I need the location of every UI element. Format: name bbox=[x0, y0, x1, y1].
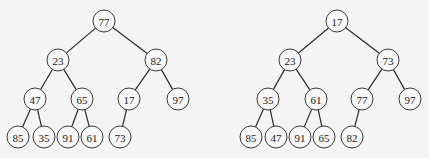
right-tree-edge bbox=[270, 110, 273, 126]
right-tree-edge bbox=[393, 70, 404, 90]
node-value: 77 bbox=[99, 16, 111, 28]
left-tree-node: 73 bbox=[109, 126, 131, 148]
right-tree-edge bbox=[296, 69, 310, 90]
node-value: 47 bbox=[30, 94, 42, 106]
node-value: 65 bbox=[77, 94, 89, 106]
right-tree-node: 85 bbox=[240, 126, 262, 148]
right-tree-edge bbox=[318, 110, 321, 126]
binary-tree-diagram: 7723824765179785359161731723733561779785… bbox=[0, 0, 429, 158]
node-value: 61 bbox=[311, 94, 322, 106]
node-value: 73 bbox=[115, 132, 127, 144]
right-tree-edge bbox=[298, 28, 328, 53]
left-tree-edge bbox=[161, 70, 172, 90]
right-tree-edge bbox=[304, 109, 311, 127]
right-tree-node: 47 bbox=[265, 126, 287, 148]
left-tree-edge bbox=[38, 110, 42, 127]
node-value: 35 bbox=[263, 94, 275, 106]
right-tree-node: 82 bbox=[341, 126, 363, 148]
left-tree-edge bbox=[113, 28, 147, 54]
right-tree-node: 73 bbox=[377, 49, 399, 71]
node-value: 61 bbox=[87, 132, 98, 144]
right-tree-edge bbox=[355, 110, 359, 127]
node-value: 97 bbox=[405, 94, 417, 106]
right-tree-node: 77 bbox=[351, 88, 373, 110]
right-tree-node: 17 bbox=[326, 10, 348, 32]
left-tree-edge bbox=[64, 69, 76, 89]
node-value: 82 bbox=[151, 55, 162, 67]
node-value: 23 bbox=[285, 55, 297, 67]
left-tree-node: 35 bbox=[33, 126, 55, 148]
left-tree-node: 17 bbox=[118, 88, 140, 110]
left-tree-node: 61 bbox=[81, 126, 103, 148]
node-value: 85 bbox=[13, 132, 25, 144]
node-value: 17 bbox=[332, 16, 344, 28]
node-value: 17 bbox=[124, 94, 136, 106]
left-tree-node: 23 bbox=[47, 49, 69, 71]
right-tree-edge bbox=[368, 69, 382, 90]
right-tree-node: 35 bbox=[257, 88, 279, 110]
node-value: 85 bbox=[246, 132, 258, 144]
left-tree-node: 85 bbox=[7, 126, 29, 148]
node-value: 73 bbox=[383, 55, 395, 67]
tree-edges bbox=[22, 28, 404, 127]
left-tree-node: 82 bbox=[145, 49, 167, 71]
node-value: 23 bbox=[53, 55, 65, 67]
right-tree-node: 23 bbox=[279, 49, 301, 71]
left-tree-node: 65 bbox=[71, 88, 93, 110]
right-tree-node: 61 bbox=[305, 88, 327, 110]
left-tree-edge bbox=[22, 109, 30, 127]
left-tree-edge bbox=[135, 69, 149, 90]
node-value: 91 bbox=[295, 132, 306, 144]
node-value: 77 bbox=[357, 94, 369, 106]
node-value: 47 bbox=[271, 132, 283, 144]
right-tree-node: 65 bbox=[313, 126, 335, 148]
node-value: 82 bbox=[347, 132, 358, 144]
left-tree-edge bbox=[66, 28, 95, 53]
left-tree-edge bbox=[85, 110, 89, 127]
left-tree-node: 47 bbox=[24, 88, 46, 110]
node-value: 35 bbox=[39, 132, 51, 144]
left-tree-edge bbox=[123, 110, 127, 127]
right-tree-edge bbox=[273, 70, 284, 90]
node-value: 91 bbox=[63, 132, 74, 144]
left-tree-node: 77 bbox=[93, 10, 115, 32]
left-tree-edge bbox=[41, 69, 53, 89]
left-tree-edge bbox=[72, 109, 78, 126]
right-tree-node: 97 bbox=[399, 88, 421, 110]
node-value: 97 bbox=[173, 94, 185, 106]
left-tree-node: 91 bbox=[57, 126, 79, 148]
right-tree-edge bbox=[346, 28, 380, 54]
right-tree-edge bbox=[255, 109, 263, 127]
right-tree-node: 91 bbox=[289, 126, 311, 148]
node-value: 65 bbox=[319, 132, 331, 144]
left-tree-node: 97 bbox=[167, 88, 189, 110]
